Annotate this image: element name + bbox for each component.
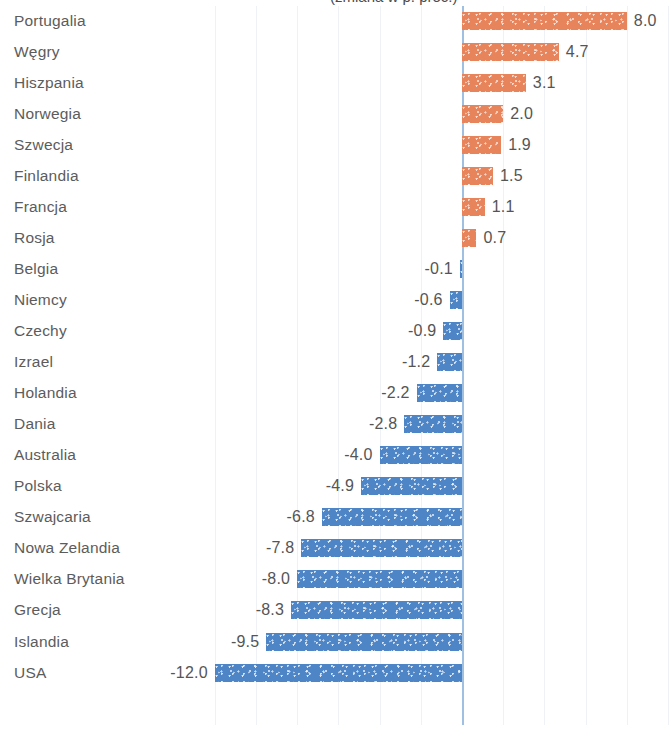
category-label: Polska <box>14 477 62 495</box>
bar-negative <box>297 570 462 588</box>
value-label: -1.2 <box>402 353 430 371</box>
value-label: 1.1 <box>492 198 515 216</box>
value-label: 1.9 <box>508 136 531 154</box>
category-label: Szwajcaria <box>14 508 91 526</box>
bar-positive <box>462 74 526 92</box>
value-label: -8.0 <box>262 570 290 588</box>
bar-row: USA-12.0 <box>0 657 672 688</box>
value-label: -0.6 <box>414 291 442 309</box>
bar-chart: (zmiana w p. proc.) Portugalia8.0Węgry4.… <box>0 0 672 731</box>
bar-negative <box>322 508 462 526</box>
value-label: -12.0 <box>170 664 207 682</box>
value-label: -8.3 <box>256 601 284 619</box>
category-label: Niemcy <box>14 291 67 309</box>
value-label: -2.8 <box>369 415 397 433</box>
value-label: 4.7 <box>566 43 589 61</box>
value-label: 2.0 <box>510 105 533 123</box>
bar-negative <box>291 601 462 619</box>
category-label: Grecja <box>14 601 61 619</box>
bar-row: Islandia-9.5 <box>0 626 672 657</box>
bar-row: Grecja-8.3 <box>0 595 672 626</box>
bar-row: Belgia-0.1 <box>0 253 672 284</box>
bar-negative <box>417 384 462 402</box>
bar-row: Australia-4.0 <box>0 440 672 471</box>
value-label: 3.1 <box>533 74 556 92</box>
category-label: Australia <box>14 446 76 464</box>
bar-negative <box>404 415 462 433</box>
bar-row: Finlandia1.5 <box>0 160 672 191</box>
value-label: -0.1 <box>425 260 453 278</box>
bar-row: Francja1.1 <box>0 191 672 222</box>
bar-row: Rosja0.7 <box>0 222 672 253</box>
category-label: Belgia <box>14 260 58 278</box>
category-label: Hiszpania <box>14 74 84 92</box>
bar-row: Dania-2.8 <box>0 409 672 440</box>
bar-row: Holandia-2.2 <box>0 378 672 409</box>
category-label: Rosja <box>14 229 55 247</box>
bar-positive <box>462 136 501 154</box>
value-label: -4.9 <box>326 477 354 495</box>
bar-positive <box>462 198 485 216</box>
category-label: Czechy <box>14 322 67 340</box>
bar-negative <box>301 539 462 557</box>
category-label: Węgry <box>14 43 60 61</box>
bar-negative <box>380 446 462 464</box>
category-label: Holandia <box>14 384 77 402</box>
bar-positive <box>462 167 493 185</box>
category-label: Finlandia <box>14 167 79 185</box>
value-label: -2.2 <box>381 384 409 402</box>
category-label: USA <box>14 664 46 682</box>
bar-negative <box>450 291 462 309</box>
bar-row: Hiszpania3.1 <box>0 67 672 98</box>
bar-negative <box>460 260 462 278</box>
category-label: Nowa Zelandia <box>14 539 120 557</box>
bar-positive <box>462 105 503 123</box>
bar-row: Portugalia8.0 <box>0 5 672 36</box>
bar-row: Izrael-1.2 <box>0 347 672 378</box>
value-label: -9.5 <box>231 633 259 651</box>
category-label: Islandia <box>14 633 69 651</box>
bar-positive <box>462 12 627 30</box>
category-label: Wielka Brytania <box>14 570 125 588</box>
category-label: Dania <box>14 415 56 433</box>
bar-negative <box>443 322 462 340</box>
category-label: Izrael <box>14 353 53 371</box>
bar-row: Szwecja1.9 <box>0 129 672 160</box>
value-label: -4.0 <box>344 446 372 464</box>
bar-negative <box>361 477 462 495</box>
category-label: Francja <box>14 198 67 216</box>
value-label: 8.0 <box>634 12 657 30</box>
bar-row: Szwajcaria-6.8 <box>0 502 672 533</box>
value-label: 0.7 <box>483 229 506 247</box>
bar-positive <box>462 229 476 247</box>
bar-row: Wielka Brytania-8.0 <box>0 564 672 595</box>
bar-row: Czechy-0.9 <box>0 316 672 347</box>
bar-row: Nowa Zelandia-7.8 <box>0 533 672 564</box>
category-label: Norwegia <box>14 105 81 123</box>
value-label: -0.9 <box>408 322 436 340</box>
value-label: -7.8 <box>266 539 294 557</box>
value-label: 1.5 <box>500 167 523 185</box>
bar-row: Węgry4.7 <box>0 36 672 67</box>
plot-area: Portugalia8.0Węgry4.7Hiszpania3.1Norwegi… <box>0 0 672 731</box>
value-label: -6.8 <box>287 508 315 526</box>
bar-row: Polska-4.9 <box>0 471 672 502</box>
bar-negative <box>266 633 462 651</box>
bar-row: Niemcy-0.6 <box>0 284 672 315</box>
bar-negative <box>437 353 462 371</box>
category-label: Szwecja <box>14 136 73 154</box>
category-label: Portugalia <box>14 12 86 30</box>
bar-negative <box>215 664 462 682</box>
bar-positive <box>462 43 559 61</box>
bar-row: Norwegia2.0 <box>0 98 672 129</box>
